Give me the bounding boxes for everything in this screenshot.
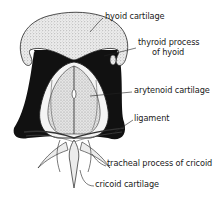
label-tracheal-process: tracheal process of cricoid [107, 159, 212, 168]
larynx-diagram [0, 0, 221, 199]
label-hyoid-cartilage: hyoid cartilage [105, 12, 165, 21]
label-cricoid-cartilage: cricoid cartilage [95, 180, 159, 189]
label-arytenoid-cartilage: arytenoid cartilage [134, 86, 210, 95]
thyroid-process-shape [110, 55, 116, 65]
label-ligament: ligament [134, 114, 169, 123]
label-thyroid-process-of-hyoid: of hyoid [152, 48, 184, 57]
label-thyroid-process: thyroid process [138, 38, 199, 47]
